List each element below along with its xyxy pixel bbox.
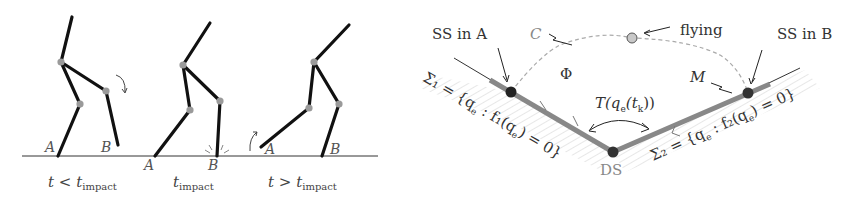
flight-trajectory [511,35,748,93]
rotation-arrow-icon [116,75,125,92]
label-a-frame-2: A [144,158,154,172]
label-phi: Φ [560,67,572,82]
ss-b-pointer-icon [752,50,762,82]
c-pointer-icon [549,34,572,45]
label-b-frame-3: B [330,142,340,156]
label-a-frame-1: A [45,140,55,154]
walker-frame-before-impact [58,17,118,156]
walker-drawing [0,0,400,201]
walker-frame-at-impact [155,23,220,156]
label-flying: flying [680,23,723,38]
label-b-frame-1: B [101,140,111,154]
label-a-frame-3: A [265,142,275,156]
walker-impact-sequence: A B A B A B t < timpact timpact t > timp… [0,0,400,201]
caption-before-impact: t < timpact [48,175,117,192]
ss-a-node [506,87,517,98]
hybrid-phase-diagram: SS in A SS in B flying C Φ M T(qe(tk)) D… [400,0,855,201]
walker-frame-after-impact [261,25,349,156]
flying-pointer-icon [645,27,670,33]
ds-node [608,147,619,158]
ss-b-node [743,88,754,99]
flying-node [627,33,637,43]
label-ds: DS [600,163,622,178]
label-ss-in-b: SS in B [777,27,832,42]
ss-a-pointer-icon [498,48,507,80]
label-ss-in-a: SS in A [432,27,487,42]
transition-arrow-icon [590,120,648,130]
caption-at-impact: timpact [173,175,214,192]
label-m: M [690,70,705,85]
m-pointer-icon [711,83,732,93]
label-transition-map: T(qe(tk)) [595,96,655,114]
label-b-frame-2: B [208,158,218,172]
caption-after-impact: t > timpact [268,175,337,192]
label-c: C [530,27,541,42]
